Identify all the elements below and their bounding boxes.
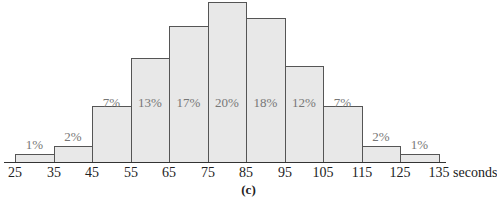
bar-value-label: 7% xyxy=(93,95,131,111)
x-tick-label: 75 xyxy=(188,165,228,181)
x-axis-unit-label: seconds xyxy=(453,165,497,181)
histogram-bar xyxy=(323,106,363,163)
bar-value-label: 12% xyxy=(285,95,323,111)
histogram-bar xyxy=(92,106,132,163)
x-axis-line xyxy=(4,162,446,163)
histogram-bar xyxy=(246,18,286,163)
bar-value-label: 20% xyxy=(208,95,246,111)
bar-value-label: 1% xyxy=(16,137,54,153)
bar-value-label: 17% xyxy=(170,95,208,111)
histogram-bar xyxy=(362,146,401,163)
histogram-bar xyxy=(54,146,93,163)
bar-value-label: 13% xyxy=(131,95,169,111)
bar-value-label: 7% xyxy=(324,95,362,111)
histogram-bar xyxy=(285,66,324,163)
bar-value-label: 2% xyxy=(54,129,92,145)
x-tick-label: 125 xyxy=(380,165,420,181)
x-tick-label: 25 xyxy=(0,165,35,181)
figure-caption: (c) xyxy=(0,182,497,198)
x-tick-label: 95 xyxy=(265,165,305,181)
histogram-chart: 1%2%7%13%17%20%18%12%7%2%1% 253545556575… xyxy=(0,0,497,201)
x-tick-label: 35 xyxy=(34,165,74,181)
x-tick-label: 45 xyxy=(72,165,112,181)
bar-value-label: 18% xyxy=(247,95,285,111)
x-tick-label: 105 xyxy=(303,165,343,181)
bar-value-label: 1% xyxy=(401,137,439,153)
x-tick-label: 115 xyxy=(342,165,382,181)
x-tick-label: 85 xyxy=(226,165,266,181)
x-tick-label: 65 xyxy=(149,165,189,181)
histogram-bar xyxy=(208,2,247,163)
bar-value-label: 2% xyxy=(362,129,400,145)
x-tick-label: 55 xyxy=(111,165,151,181)
